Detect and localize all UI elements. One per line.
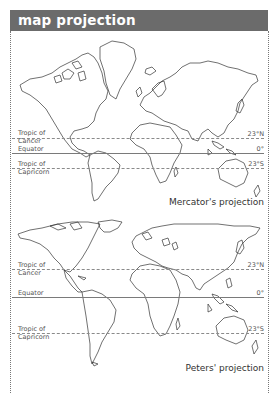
peters-world-outline-icon bbox=[12, 218, 264, 368]
peters-tropic-of-capricorn-line bbox=[12, 333, 264, 334]
peters-23s-label: 23°S bbox=[248, 325, 264, 333]
peters-tropic-of-cancer-label: Tropic of Cancer bbox=[18, 262, 45, 277]
mercator-caption: Mercator's projection bbox=[169, 197, 264, 207]
peters-equator-line bbox=[12, 297, 264, 298]
label-line: Equator bbox=[18, 290, 44, 298]
peters-equator-label: Equator bbox=[18, 290, 44, 298]
mercator-equator-line bbox=[12, 153, 264, 154]
mercator-23n-label: 23°N bbox=[248, 130, 264, 138]
peters-caption: Peters' projection bbox=[186, 363, 264, 373]
peters-0-label: 0° bbox=[257, 289, 264, 297]
page-title: map projection bbox=[18, 12, 136, 28]
label-line: Capricorn bbox=[18, 169, 49, 177]
peters-23n-label: 23°N bbox=[248, 261, 264, 269]
peters-tropic-of-capricorn-label: Tropic of Capricorn bbox=[18, 326, 49, 341]
mercator-0-label: 0° bbox=[257, 145, 264, 153]
mercator-tropic-of-capricorn-line bbox=[12, 168, 264, 169]
mercator-equator-label: Equator bbox=[18, 146, 44, 154]
label-line: Equator bbox=[18, 146, 44, 154]
title-bar: map projection bbox=[10, 10, 268, 31]
peters-tropic-of-cancer-line bbox=[12, 269, 264, 270]
mercator-world-outline-icon bbox=[12, 33, 264, 203]
label-line: Cancer bbox=[18, 138, 45, 146]
mercator-tropic-of-cancer-label: Tropic of Cancer bbox=[18, 130, 45, 145]
mercator-tropic-of-cancer-line bbox=[12, 138, 264, 139]
mercator-map bbox=[12, 33, 264, 203]
label-line: Capricorn bbox=[18, 334, 49, 342]
mercator-tropic-of-capricorn-label: Tropic of Capricorn bbox=[18, 161, 49, 176]
label-line: Cancer bbox=[18, 270, 45, 278]
peters-map bbox=[12, 218, 264, 368]
mercator-23s-label: 23°S bbox=[248, 160, 264, 168]
